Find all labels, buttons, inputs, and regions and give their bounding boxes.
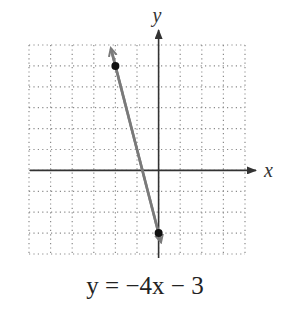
y-axis-label: y [151, 4, 162, 27]
axes [30, 30, 256, 258]
marked-point [111, 62, 119, 70]
x-axis-label: x [263, 159, 273, 181]
coordinate-plane: x y [0, 0, 290, 316]
equation-label: y = −4x − 3 [0, 272, 290, 300]
marked-point [155, 229, 163, 237]
